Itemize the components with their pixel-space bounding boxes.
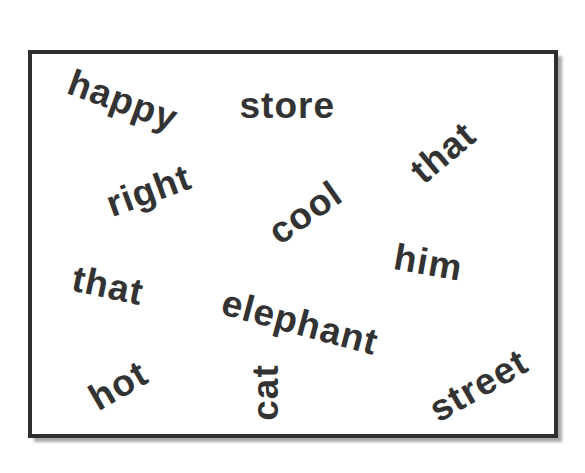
word-store: store — [240, 87, 335, 124]
word-cat: cat — [247, 364, 284, 420]
